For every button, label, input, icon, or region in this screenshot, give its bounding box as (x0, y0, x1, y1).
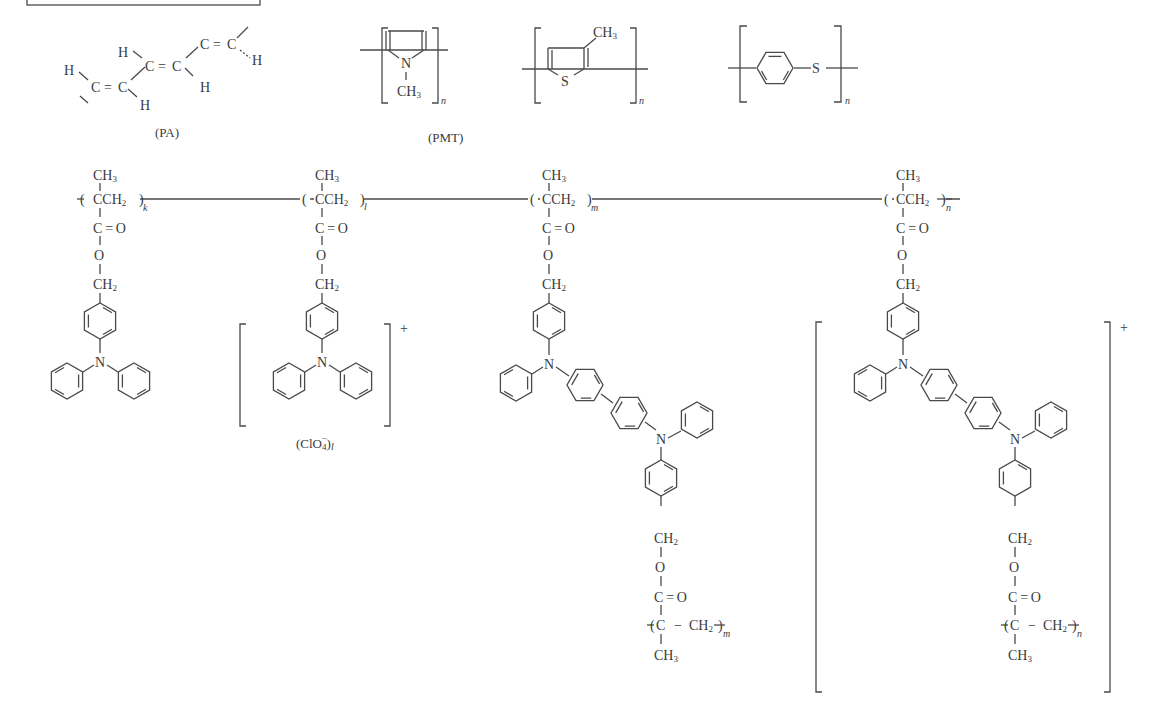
svg-text:O: O (655, 560, 665, 575)
bracket-left (816, 322, 822, 692)
svg-text:N: N (544, 357, 554, 372)
svg-text:C: C (172, 59, 181, 74)
bracket-right (1104, 322, 1110, 692)
svg-text:S: S (812, 61, 820, 76)
svg-text:N: N (656, 432, 666, 447)
svg-text:O: O (1009, 560, 1019, 575)
svg-text:−: − (674, 618, 682, 633)
svg-text:CH3: CH3 (315, 168, 339, 184)
svg-text:CH2: CH2 (315, 277, 339, 293)
monomer-unit-l: CH3 ( CCH2 ) l C = O O CH2 N + (ClO4−)l (240, 168, 408, 452)
perchlorate-counterion: (ClO4−)l (296, 433, 334, 452)
svg-text:N: N (898, 357, 908, 372)
svg-text:CH2: CH2 (689, 618, 713, 634)
svg-text:(: ( (80, 192, 85, 208)
svg-text:C = O: C = O (1008, 590, 1041, 605)
svg-text:CCH2: CCH2 (315, 192, 348, 208)
svg-text:N: N (95, 355, 105, 370)
svg-text:(: ( (1004, 618, 1009, 634)
svg-text:l: l (364, 201, 367, 212)
svg-text:C = O: C = O (654, 590, 687, 605)
quinoid-ring (999, 460, 1030, 496)
svg-text:CH2: CH2 (1043, 618, 1067, 634)
svg-text:k: k (143, 202, 148, 213)
svg-text:N: N (1010, 432, 1020, 447)
svg-text:C: C (118, 80, 127, 95)
svg-text:O: O (543, 248, 553, 263)
pmt-caption: (PMT) (428, 130, 463, 145)
svg-text:CH2: CH2 (93, 277, 117, 293)
svg-text:O: O (94, 248, 104, 263)
monomer-unit-m: CH3 ( CCH2 ) m C = O O CH2 N N (500, 168, 730, 664)
svg-text:m: m (723, 628, 730, 639)
svg-text:C: C (145, 59, 154, 74)
svg-text:N: N (317, 355, 327, 370)
svg-text:C: C (656, 618, 665, 633)
svg-text:O: O (316, 248, 326, 263)
svg-text:CCH2: CCH2 (542, 192, 575, 208)
svg-text:CH3: CH3 (93, 168, 117, 184)
svg-text:O: O (897, 248, 907, 263)
svg-text:C = O: C = O (93, 221, 126, 236)
svg-text:CH2: CH2 (654, 531, 678, 547)
chemical-structures-figure: H C = C H H C = C H C = C H (PA) N (0, 0, 1170, 706)
svg-text:CH2: CH2 (542, 277, 566, 293)
svg-text:C: C (91, 80, 100, 95)
svg-text:C: C (200, 37, 209, 52)
svg-text:CCH2: CCH2 (896, 192, 929, 208)
monomer-unit-k: CH3 ( CCH2 ) k C = O O CH2 N (51, 168, 149, 399)
svg-text:n: n (1077, 628, 1082, 639)
monomer-unit-n: CH3 ( CCH2 ) n C = O O CH2 N N (816, 168, 1128, 692)
svg-text:S: S (561, 74, 569, 89)
svg-text:CH2: CH2 (1008, 531, 1032, 547)
svg-text:−: − (1028, 618, 1036, 633)
svg-text:CH3: CH3 (654, 648, 678, 664)
svg-text:CH3: CH3 (397, 84, 421, 100)
svg-text:CCH2: CCH2 (93, 192, 126, 208)
svg-text:(: ( (650, 618, 655, 634)
svg-text:(: ( (302, 192, 307, 208)
svg-text:H: H (118, 45, 128, 60)
svg-text:n: n (845, 95, 850, 106)
svg-text:n: n (946, 202, 951, 213)
bracket-right (384, 324, 390, 426)
svg-text:C: C (1010, 618, 1019, 633)
positive-charge: + (1120, 320, 1128, 335)
svg-text:=: = (213, 37, 221, 52)
poly-n-methylpyrrole-structure: N CH3 n (360, 28, 448, 106)
svg-text:n: n (639, 95, 644, 106)
header-box (27, 0, 260, 5)
poly-phenylene-sulfide-structure: S n (728, 26, 858, 106)
svg-text:CH3: CH3 (1008, 648, 1032, 664)
positive-charge: + (400, 321, 408, 336)
polyacetylene-structure: H C = C H H C = C H C = C H (PA) (64, 27, 262, 140)
svg-text:(: ( (884, 192, 889, 208)
svg-text:CH3: CH3 (542, 168, 566, 184)
svg-text:(: ( (530, 192, 535, 208)
svg-text:CH3: CH3 (593, 25, 617, 41)
svg-text:C = O: C = O (896, 221, 929, 236)
svg-text:H: H (64, 63, 74, 78)
poly-3-methylthiophene-structure: S CH3 n (PMT) (428, 25, 648, 145)
svg-text:=: = (158, 59, 166, 74)
svg-text:C = O: C = O (315, 221, 348, 236)
svg-text:CH3: CH3 (896, 168, 920, 184)
pa-caption: (PA) (155, 125, 179, 140)
svg-text:m: m (591, 202, 598, 213)
svg-text:N: N (401, 56, 411, 71)
bracket-left (240, 324, 246, 426)
svg-text:H: H (200, 80, 210, 95)
svg-text:C = O: C = O (542, 221, 575, 236)
svg-text:n: n (441, 95, 446, 106)
svg-text:CH2: CH2 (896, 277, 920, 293)
svg-text:H: H (252, 53, 262, 68)
svg-text:H: H (140, 98, 150, 113)
svg-text:C: C (227, 37, 236, 52)
svg-text:=: = (104, 80, 112, 95)
